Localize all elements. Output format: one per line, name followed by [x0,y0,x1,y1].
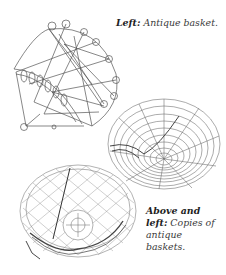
caption-copies: Above and left: Copies of antique basket… [146,205,224,253]
caption-label: Left: [116,17,140,28]
caption-antique-basket: Left: Antique basket. [116,17,218,29]
caption-text: Antique basket. [143,17,218,28]
deep-basket-illustration [18,163,140,263]
